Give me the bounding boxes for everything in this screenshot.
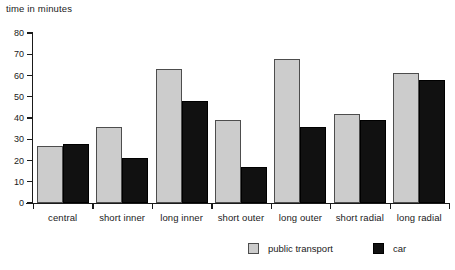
bar [156, 69, 182, 203]
x-tick-mark [92, 203, 93, 209]
legend-entry: car [373, 243, 406, 254]
y-tick-label: 30 [0, 133, 24, 145]
x-axis-category-label: short inner [92, 212, 151, 223]
y-tick-label: 20 [0, 155, 24, 167]
x-tick-mark [33, 203, 34, 209]
bar [182, 101, 208, 203]
bar [241, 167, 267, 203]
x-tick-mark [211, 203, 212, 209]
legend-swatch-icon [373, 243, 384, 254]
bar [393, 73, 419, 203]
y-tick-mark [27, 32, 33, 33]
bar [122, 158, 148, 203]
legend-label: car [393, 243, 406, 254]
bar [37, 146, 63, 203]
y-tick-label: 10 [0, 176, 24, 188]
x-axis-category-label: long radial [390, 212, 449, 223]
x-axis-category-label: long inner [152, 212, 211, 223]
x-axis-category-label: short radial [330, 212, 389, 223]
chart-legend: public transportcar [248, 243, 406, 254]
bar [274, 59, 300, 204]
x-axis-category-label: short outer [211, 212, 270, 223]
y-tick-mark [27, 54, 33, 55]
legend-entry: public transport [248, 243, 333, 254]
y-tick-label: 80 [0, 27, 24, 39]
y-tick-label: 40 [0, 112, 24, 124]
y-tick-label: 50 [0, 91, 24, 103]
y-tick-label: 0 [0, 197, 24, 209]
y-tick-mark [27, 96, 33, 97]
x-axis-category-label: long outer [271, 212, 330, 223]
y-tick-label: 60 [0, 70, 24, 82]
bar [96, 127, 122, 204]
x-axis-category-label: central [33, 212, 92, 223]
legend-swatch-icon [248, 243, 259, 254]
bar-chart: time in minutes 01020304050607080 centra… [0, 0, 455, 270]
bar [300, 127, 326, 204]
bar [215, 120, 241, 203]
x-tick-mark [449, 203, 450, 209]
y-tick-mark [27, 117, 33, 118]
x-tick-mark [152, 203, 153, 209]
legend-label: public transport [268, 243, 333, 254]
x-tick-mark [390, 203, 391, 209]
y-tick-mark [27, 160, 33, 161]
y-tick-mark [27, 75, 33, 76]
y-tick-mark [27, 139, 33, 140]
x-tick-mark [271, 203, 272, 209]
bar [419, 80, 445, 203]
x-tick-mark [330, 203, 331, 209]
bar [360, 120, 386, 203]
y-tick-label: 70 [0, 48, 24, 60]
y-axis-title: time in minutes [6, 3, 72, 14]
bar [63, 144, 89, 204]
bar [334, 114, 360, 203]
y-tick-mark [27, 181, 33, 182]
